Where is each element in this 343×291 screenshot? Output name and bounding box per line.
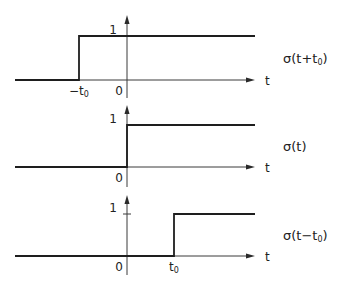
- step-signal-curve: [15, 36, 255, 80]
- panel-shift-left: 1 0 t −t0 σ(t+t0): [15, 15, 328, 99]
- origin-label: 0: [115, 260, 123, 274]
- function-label: σ(t): [283, 139, 307, 154]
- y-axis-arrow-icon: [125, 195, 130, 204]
- x-axis-label: t: [265, 74, 270, 88]
- origin-label: 0: [115, 84, 123, 98]
- step-signal-curve: [15, 125, 255, 167]
- x-axis-label: t: [265, 161, 270, 175]
- y-axis-arrow-icon: [125, 105, 130, 114]
- step-position-label: −t0: [69, 84, 89, 99]
- step-signal-curve: [15, 214, 255, 256]
- step-position-label: t0: [169, 260, 179, 275]
- y-axis-arrow-icon: [125, 15, 130, 24]
- y-tick-label-1: 1: [109, 112, 117, 126]
- y-tick-label-1: 1: [109, 23, 117, 37]
- y-tick-label-1: 1: [109, 201, 117, 215]
- x-axis-label: t: [265, 250, 270, 264]
- x-axis-arrow-icon: [246, 165, 255, 170]
- function-label: σ(t+t0): [283, 51, 328, 67]
- panel-shift-right: 1 0 t t0 σ(t−t0): [15, 195, 328, 275]
- x-axis-arrow-icon: [246, 254, 255, 259]
- origin-label: 0: [115, 171, 123, 185]
- unit-step-shift-diagram: 1 0 t −t0 σ(t+t0) 1 0 t σ(t) 1 0 t: [0, 0, 343, 291]
- function-label: σ(t−t0): [283, 228, 328, 244]
- panel-unit-step: 1 0 t σ(t): [15, 105, 307, 187]
- x-axis-arrow-icon: [246, 78, 255, 83]
